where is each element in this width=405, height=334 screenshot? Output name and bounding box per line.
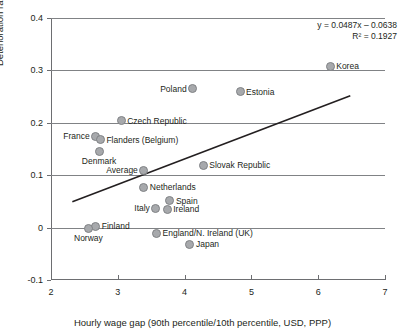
data-point-label: France	[63, 131, 89, 141]
data-point	[163, 205, 172, 214]
plot-area: KoreaPolandEstoniaCzech RepublicFranceFl…	[51, 18, 385, 280]
regression-equation: y = 0.0487x – 0.0638	[317, 20, 397, 31]
x-tick-label: 5	[231, 287, 271, 297]
x-axis-title: Hourly wage gap (90th percentile/10th pe…	[0, 317, 405, 328]
data-point-label: Estonia	[246, 87, 274, 97]
data-point	[117, 116, 126, 125]
data-point-label: Italy	[134, 203, 150, 213]
data-point	[95, 147, 104, 156]
x-tick-label: 6	[298, 287, 338, 297]
y-tick-label: 0.1	[30, 170, 43, 180]
data-point	[84, 224, 93, 233]
data-point	[326, 62, 335, 71]
data-point	[199, 161, 208, 170]
r-squared-value: R² = 0.1927	[317, 31, 397, 42]
x-tick-label: 2	[31, 287, 71, 297]
y-tick	[47, 280, 51, 281]
y-tick-label: 0.2	[30, 118, 43, 128]
x-tick	[385, 275, 386, 280]
data-point-label: England/N. Ireland (UK)	[163, 228, 253, 238]
data-point-label: Ireland	[173, 204, 199, 214]
y-tick-label: 0.4	[30, 13, 43, 23]
data-point-label: Poland	[160, 84, 186, 94]
y-tick-label: -0.1	[27, 275, 43, 285]
regression-annotation: y = 0.0487x – 0.0638 R² = 0.1927	[317, 20, 397, 42]
data-point-label: Slovak Republic	[209, 160, 270, 170]
data-point	[152, 229, 161, 238]
data-point-label: Flanders (Belgium)	[106, 135, 178, 145]
data-point-label: Czech Republic	[127, 116, 187, 126]
data-point-label: Norway	[74, 233, 103, 243]
x-tick-label: 4	[165, 287, 205, 297]
x-tick-label: 7	[365, 287, 405, 297]
data-point	[236, 87, 245, 96]
x-tick-label: 3	[98, 287, 138, 297]
data-point-label: Netherlands	[150, 182, 196, 192]
y-tick-label: 0.3	[30, 65, 43, 75]
data-point-label: Korea	[336, 61, 359, 71]
scatter-chart: KoreaPolandEstoniaCzech RepublicFranceFl…	[0, 0, 405, 334]
data-point-label: Japan	[196, 239, 219, 249]
data-point	[96, 135, 105, 144]
y-tick-label: 0	[38, 223, 43, 233]
y-axis-title: Deterioration rate of skills (%)	[0, 0, 5, 66]
data-point-label: Average	[106, 165, 138, 175]
data-point-label: Finland	[102, 221, 130, 231]
